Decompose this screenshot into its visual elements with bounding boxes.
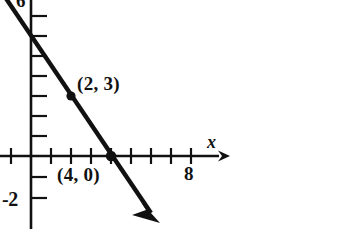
point-4-0 (106, 151, 116, 161)
point-label-4-0: (4, 0) (57, 165, 100, 184)
point-label-2-3: (2, 3) (77, 74, 120, 93)
point-2-3 (66, 91, 75, 100)
figure-canvas: 6 (2, 3) (4, 0) 8 -2 x (0, 0, 345, 235)
y-tick-label-negative-2: -2 (2, 189, 18, 209)
x-axis-arrowhead (218, 151, 230, 162)
x-axis-label: x (207, 133, 216, 151)
coordinate-plane-graph (0, 0, 345, 235)
y-tick-label-6: 6 (16, 0, 26, 10)
plotted-line-group (5, 0, 160, 223)
x-tick-label-8: 8 (184, 164, 194, 183)
y-axis-ticks (31, 16, 47, 198)
